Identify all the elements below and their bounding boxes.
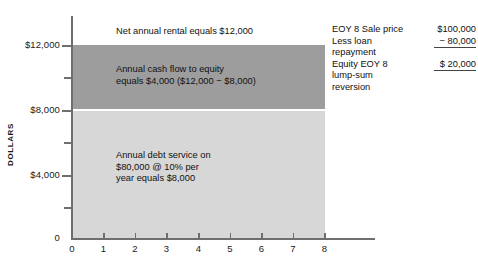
x-tick-6 (261, 233, 263, 239)
y-label-8000: $8,000 (8, 104, 60, 115)
x-label-3: 3 (157, 243, 177, 254)
annotation-annual-cash-flow: Annual cash flow to equity equals $4,000… (116, 64, 256, 87)
x-tick-5 (230, 233, 232, 239)
y-label-4000: $4,000 (8, 169, 60, 180)
reversion-row-1-value: − 80,000 (434, 36, 476, 49)
x-label-0: 0 (62, 243, 82, 254)
x-tick-0 (72, 233, 74, 239)
x-label-1: 1 (94, 243, 114, 254)
y-tick-8000 (62, 110, 72, 112)
y-axis-line (71, 16, 73, 239)
annotation-net-annual-rental: Net annual rental equals $12,000 (116, 26, 253, 38)
y-axis-title: DOLLARS (6, 117, 15, 173)
y-label-0: 0 (8, 232, 60, 243)
x-tick-2 (135, 233, 137, 239)
x-label-4: 4 (189, 243, 209, 254)
y-tick-6000 (64, 142, 72, 144)
x-axis-line (71, 238, 375, 240)
y-tick-12000 (62, 45, 72, 47)
x-tick-4 (198, 233, 200, 239)
annotation-annual-debt-service: Annual debt service on $80,000 @ 10% per… (116, 150, 211, 185)
x-label-2: 2 (125, 243, 145, 254)
y-label-12000: $12,000 (8, 39, 60, 50)
x-label-7: 7 (283, 243, 303, 254)
y-tick-10000 (64, 77, 72, 79)
x-label-8: 8 (315, 243, 335, 254)
band-separator (72, 109, 325, 111)
y-tick-4000 (62, 175, 72, 177)
x-label-5: 5 (220, 243, 240, 254)
x-label-6: 6 (252, 243, 272, 254)
x-tick-1 (103, 233, 105, 239)
x-tick-3 (166, 233, 168, 239)
x-tick-8 (324, 233, 326, 239)
reversion-table: EOY 8 Sale price Less loan repayment Equ… (332, 24, 476, 94)
reversion-row-0-value: $100,000 (431, 24, 476, 36)
reversion-row-2-value: $ 20,000 (434, 59, 476, 72)
x-tick-7 (293, 233, 295, 239)
y-tick-2000 (64, 207, 72, 209)
